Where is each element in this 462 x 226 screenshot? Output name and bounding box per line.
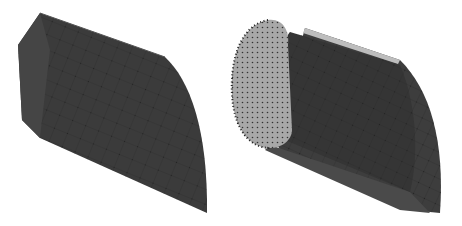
mesh-figure bbox=[0, 0, 462, 226]
right-tunnel-mesh bbox=[232, 20, 441, 213]
left-mesh-block bbox=[18, 13, 207, 213]
